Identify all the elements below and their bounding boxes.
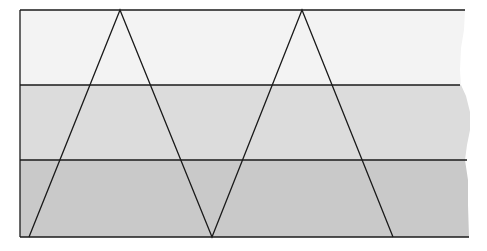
bottom-band — [20, 160, 475, 237]
diagram-canvas — [0, 0, 487, 251]
band-zigzag-diagram — [0, 0, 487, 251]
top-band — [20, 10, 475, 85]
